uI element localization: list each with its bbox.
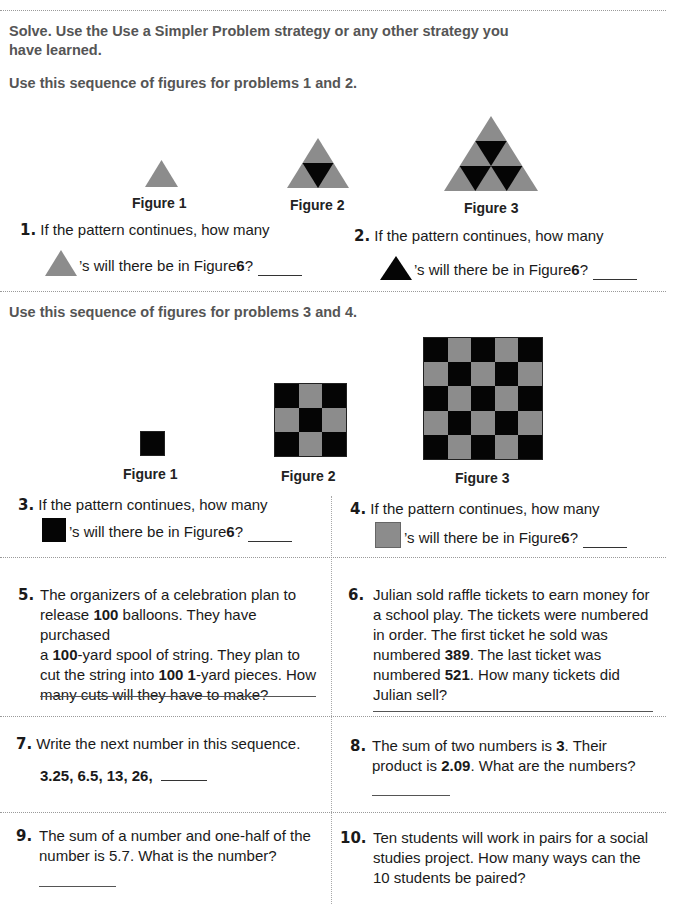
- bold-number: 100: [53, 646, 78, 663]
- bold-number: 389: [445, 646, 470, 663]
- figure-number: 6: [236, 256, 244, 276]
- text: release: [40, 606, 93, 623]
- text: -yard pieces. How: [196, 666, 316, 683]
- text-line: The organizers of a celebration plan to: [40, 585, 328, 605]
- answer-blank[interactable]: [258, 275, 302, 276]
- text: cut the string into: [40, 666, 158, 683]
- instructions-line-2: have learned.: [9, 41, 509, 60]
- figure-number: 6: [226, 522, 234, 542]
- gray-square-icon: [375, 522, 401, 548]
- problem-1: 1. If the pattern continues, how many: [20, 220, 270, 240]
- text: numbered: [373, 666, 445, 683]
- row-divider: [0, 557, 666, 558]
- problem-text: The sum of a number and one-half of the …: [39, 826, 326, 866]
- text-line: a school play. The tickets were numbered: [373, 605, 668, 625]
- text-line: Julian sell?: [373, 685, 668, 705]
- figure-number: 6: [561, 528, 569, 548]
- problem-4: 4. If the pattern continues, how many: [350, 499, 600, 519]
- problem-9-answer-line[interactable]: [39, 886, 116, 887]
- problem-number: 1.: [20, 221, 36, 239]
- text: -yard spool of string. They plan to: [78, 646, 300, 663]
- text-line: release 100 balloons. They have purchase…: [40, 605, 328, 645]
- figure-3-caption: Figure 3: [455, 470, 509, 486]
- text-line: 10 students be paired?: [373, 868, 670, 888]
- problem-text: If the pattern continues, how many: [38, 496, 267, 513]
- bold-number: 2.09: [441, 757, 470, 774]
- figure-2-caption: Figure 2: [290, 197, 344, 213]
- problem-2-line-2: ’s will there be in Figure 6?: [380, 256, 637, 280]
- figure-2-caption: Figure 2: [281, 468, 335, 484]
- text-line: product is 2.09. What are the numbers?: [372, 756, 660, 776]
- checkerboard-figure-2: [274, 383, 347, 457]
- problem-text: ’s will there be in Figure: [79, 256, 236, 276]
- text-line: numbered 389. The last ticket was: [373, 645, 668, 665]
- checkerboard-figure-1: [140, 431, 165, 456]
- answer-blank[interactable]: [583, 547, 627, 548]
- problem-text: Write the next number in this sequence.: [36, 735, 300, 752]
- text-line: many cuts will they have to make?: [40, 685, 328, 705]
- text: . The last ticket was: [470, 646, 601, 663]
- bold-number: 100 1: [158, 666, 196, 683]
- problem-text: If the pattern continues, how many: [370, 500, 599, 517]
- problem-number: 10.: [340, 828, 367, 848]
- figure-1-caption: Figure 1: [132, 195, 186, 211]
- text-line: studies project. How many ways can the: [373, 848, 670, 868]
- row-divider: [0, 716, 666, 717]
- problem-number: 5.: [18, 585, 34, 605]
- problem-10: 10. Ten students will work in pairs for …: [340, 828, 670, 888]
- text-line: Julian sold raffle tickets to earn money…: [373, 585, 668, 605]
- problem-number: 8.: [350, 736, 366, 756]
- triangle-figure-1: [145, 160, 178, 187]
- problem-text: If the pattern continues, how many: [40, 221, 269, 238]
- text: . Their: [565, 737, 607, 754]
- problem-number: 2.: [354, 227, 370, 245]
- problem-5: 5. The organizers of a celebration plan …: [18, 585, 328, 705]
- triangle-figure-2: [287, 138, 349, 188]
- problem-6-answer-line[interactable]: [373, 711, 653, 712]
- section2-intro: Use this sequence of figures for problem…: [9, 303, 357, 322]
- black-triangle-icon: [380, 256, 412, 280]
- problem-7-sequence: 3.25, 6.5, 13, 26,: [40, 766, 207, 786]
- text-line: cut the string into 100 1-yard pieces. H…: [40, 665, 328, 685]
- instructions-line-1: Solve. Use the Use a Simpler Problem str…: [9, 22, 509, 41]
- problem-text: ?: [245, 256, 253, 276]
- problem-2: 2. If the pattern continues, how many: [354, 226, 604, 246]
- text: . What are the numbers?: [470, 757, 635, 774]
- text-line: number is 5.7. What is the number?: [39, 846, 326, 866]
- problem-4-line-2: ’s will there be in Figure 6?: [375, 522, 627, 548]
- answer-blank[interactable]: [248, 541, 292, 542]
- figure-3-caption: Figure 3: [464, 200, 518, 216]
- row-divider: [0, 812, 666, 813]
- problem-8: 8. The sum of two numbers is 3. Their pr…: [350, 736, 660, 776]
- text: numbered: [373, 646, 445, 663]
- text: product is: [372, 757, 441, 774]
- sequence-values: 3.25, 6.5, 13, 26,: [40, 767, 153, 784]
- problem-text: If the pattern continues, how many: [374, 227, 603, 244]
- bold-number: 100: [93, 606, 118, 623]
- section-divider: [0, 291, 666, 292]
- problem-text: The organizers of a celebration plan to …: [40, 585, 328, 705]
- problem-7: 7. Write the next number in this sequenc…: [16, 734, 300, 754]
- text-line: a 100-yard spool of string. They plan to: [40, 645, 328, 665]
- problem-text: ?: [570, 528, 578, 548]
- text: The sum of two numbers is: [372, 737, 556, 754]
- problem-number: 6.: [348, 585, 364, 605]
- text-line: The sum of two numbers is 3. Their: [372, 736, 660, 756]
- checkerboard-figure-3: [423, 337, 543, 460]
- section1-intro: Use this sequence of figures for problem…: [9, 74, 357, 93]
- answer-blank[interactable]: [161, 780, 207, 781]
- text: a: [40, 646, 53, 663]
- problem-number: 7.: [16, 735, 32, 753]
- text-line: Ten students will work in pairs for a so…: [373, 828, 670, 848]
- black-square-icon: [42, 518, 66, 542]
- gray-triangle-icon: [45, 250, 77, 276]
- answer-blank[interactable]: [593, 279, 637, 280]
- text: . How many tickets did: [470, 666, 620, 683]
- problem-8-answer-line[interactable]: [372, 795, 450, 796]
- triangle-figure-3: [444, 116, 538, 191]
- figure-number: 6: [571, 260, 579, 280]
- bold-number: 3: [556, 737, 564, 754]
- problem-5-answer-line[interactable]: [40, 696, 316, 697]
- problem-6: 6. Julian sold raffle tickets to earn mo…: [348, 585, 668, 705]
- problem-text: ’s will there be in Figure: [404, 528, 561, 548]
